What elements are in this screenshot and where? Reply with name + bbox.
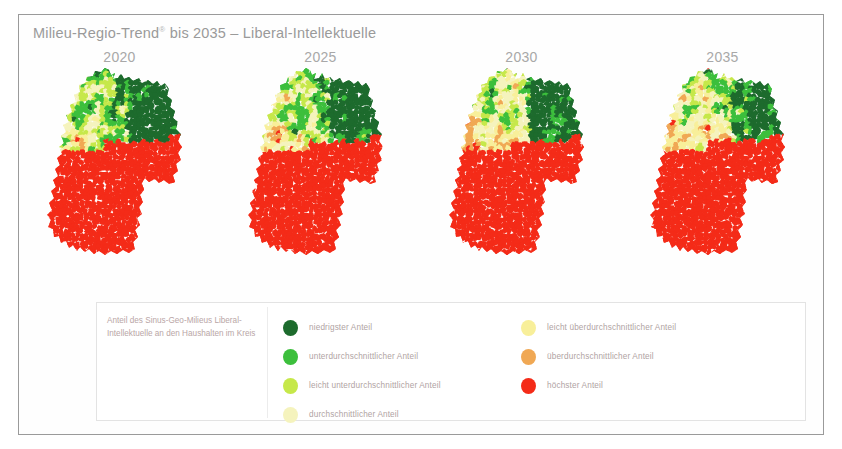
map-district <box>592 215 597 221</box>
map-district <box>537 251 544 258</box>
map-district <box>565 225 572 232</box>
map-district <box>181 214 188 222</box>
map-district <box>575 71 582 77</box>
map-district <box>653 144 660 148</box>
germany-choropleth-map[interactable] <box>246 67 396 272</box>
map-district <box>54 77 60 83</box>
map-district <box>579 267 585 272</box>
legend-item[interactable]: höchster Anteil <box>521 371 801 400</box>
map-district <box>688 67 695 70</box>
map-district <box>111 256 118 261</box>
figure-panel: Milieu-Regio-Trend® bis 2035 – Liberal-I… <box>18 14 824 435</box>
map-panel-2035[interactable]: 2035 <box>628 49 818 272</box>
map-district <box>385 184 392 190</box>
map-district <box>677 257 684 264</box>
map-district <box>156 69 163 76</box>
map-district <box>189 198 195 204</box>
map-district <box>247 182 255 190</box>
legend-item[interactable]: niedrigster Anteil <box>283 313 543 342</box>
map-district <box>447 67 452 71</box>
map-district <box>448 233 454 239</box>
map-district <box>57 76 64 83</box>
map-district <box>251 70 257 76</box>
map-district <box>788 269 794 272</box>
map-district <box>164 200 171 206</box>
map-district <box>585 206 593 212</box>
map-district <box>559 249 565 255</box>
map-district <box>182 115 187 121</box>
map-district <box>246 97 250 103</box>
map-district <box>779 195 785 201</box>
map-district <box>148 228 155 233</box>
map-district <box>455 129 461 135</box>
map-district <box>582 266 589 271</box>
map-district <box>670 265 676 271</box>
map-district <box>376 198 383 204</box>
map-panel-2020[interactable]: 2020 <box>25 49 215 272</box>
map-district <box>793 236 798 243</box>
map-district <box>784 166 790 173</box>
map-district <box>771 251 777 258</box>
map-district <box>452 109 458 116</box>
map-district <box>648 116 650 123</box>
map-district <box>680 257 687 264</box>
map-district <box>178 67 185 73</box>
map-district <box>165 224 171 230</box>
map-district <box>648 161 654 167</box>
map-district <box>456 68 462 74</box>
map-district <box>158 257 166 264</box>
map-district <box>46 129 52 135</box>
map-district <box>651 170 658 176</box>
title-main: Milieu-Regio-Trend <box>33 25 159 41</box>
map-district <box>461 257 467 264</box>
map-district <box>554 204 560 209</box>
map-district <box>652 76 658 82</box>
map-panel-2025[interactable]: 2025 <box>226 49 416 272</box>
map-district <box>383 246 389 251</box>
legend-item[interactable]: leicht unterdurchschnittlicher Anteil <box>283 371 543 400</box>
map-district <box>784 162 790 167</box>
germany-choropleth-map[interactable] <box>45 67 195 272</box>
map-district <box>727 67 733 72</box>
map-district <box>361 230 366 237</box>
map-district <box>664 68 671 74</box>
map-district <box>545 67 552 74</box>
map-district <box>175 183 183 190</box>
map-district <box>356 183 363 189</box>
map-district <box>590 213 596 219</box>
legend-item[interactable]: durchschnittlicher Anteil <box>283 400 543 429</box>
map-district <box>366 196 374 201</box>
map-district <box>344 74 350 79</box>
map-district <box>381 149 388 156</box>
map-district <box>45 151 48 157</box>
map-district <box>50 129 55 136</box>
map-district <box>757 211 762 217</box>
germany-choropleth-map[interactable] <box>447 67 597 272</box>
map-district <box>375 77 381 82</box>
map-district <box>128 256 134 262</box>
map-district <box>45 146 48 152</box>
map-district <box>260 245 266 250</box>
map-district <box>177 167 183 173</box>
map-district <box>142 216 148 222</box>
map-district <box>140 235 146 242</box>
map-district <box>262 263 269 271</box>
map-district <box>256 68 261 76</box>
legend-item[interactable]: unterdurchschnittlicher Anteil <box>283 342 543 371</box>
map-district <box>448 68 455 74</box>
map-panel-2030[interactable]: 2030 <box>427 49 617 272</box>
germany-choropleth-map[interactable] <box>648 67 798 272</box>
map-district <box>169 203 176 210</box>
map-district <box>480 267 487 272</box>
map-district <box>266 265 272 271</box>
map-district <box>547 196 554 202</box>
map-district <box>257 87 263 93</box>
map-district <box>248 94 253 101</box>
map-district <box>91 268 97 272</box>
map-district <box>246 241 249 248</box>
legend-item[interactable]: leicht überdurchschnittlicher Anteil <box>521 313 801 342</box>
map-district <box>452 149 457 155</box>
map-district <box>574 90 580 96</box>
map-district <box>346 194 352 201</box>
legend-item[interactable]: überdurchschnittlicher Anteil <box>521 342 801 371</box>
